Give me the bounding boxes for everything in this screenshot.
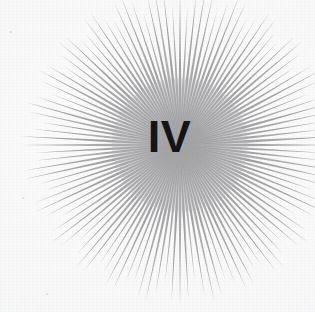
sunburst-ray	[183, 147, 308, 242]
sunburst-ray	[85, 148, 178, 270]
chapter-divider-page: IV	[0, 0, 315, 312]
sunburst-ray	[179, 149, 182, 306]
chapter-numeral: IV	[12, 114, 315, 159]
sunburst-ray	[182, 148, 276, 271]
